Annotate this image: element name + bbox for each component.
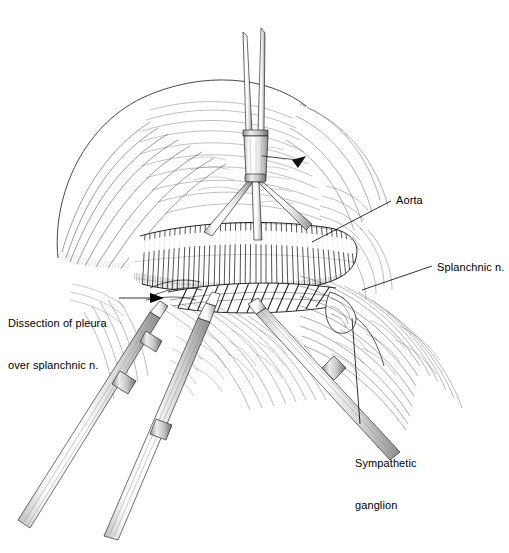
illustration-canvas bbox=[0, 0, 509, 553]
label-splanchnic-nerve: Splanchnic n. bbox=[437, 260, 504, 274]
leader-splanchnic bbox=[362, 266, 432, 290]
label-sympathetic-ganglion: Sympathetic ganglion bbox=[355, 428, 417, 540]
surgical-illustration-figure: Dissection of pleura over splanchnic n. … bbox=[0, 0, 509, 553]
label-ganglion-line2: ganglion bbox=[355, 498, 417, 512]
dissector-center[interactable] bbox=[104, 292, 220, 540]
label-aorta: Aorta bbox=[396, 193, 423, 207]
label-dissection-line2: over splanchnic n. bbox=[8, 358, 107, 372]
label-dissection-line1: Dissection of pleura bbox=[8, 316, 107, 330]
dissection-arrow-icon bbox=[150, 293, 164, 303]
label-dissection-of-pleura: Dissection of pleura over splanchnic n. bbox=[8, 288, 107, 400]
label-ganglion-line1: Sympathetic bbox=[355, 456, 417, 470]
